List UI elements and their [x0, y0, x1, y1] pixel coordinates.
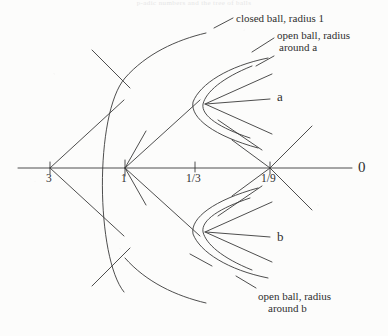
branch-1-lower-steep [125, 168, 146, 205]
leader-open-ball-b2 [190, 254, 212, 266]
open-ball-b-arc [193, 188, 268, 278]
point-label-b: b [277, 230, 284, 245]
branch-19-upper-shallow [232, 140, 270, 168]
branch-a-lower [205, 104, 272, 134]
point-label-a: a [277, 90, 283, 105]
annotation-open-ball-a-line2: around a [277, 41, 350, 53]
axis-tick-label-1: 1 [121, 172, 127, 185]
branch-1-upper-steep [125, 131, 146, 168]
leader-open-ball-b [236, 276, 256, 288]
axis-tick-label-3: 3 [46, 172, 52, 185]
open-ball-a-arc [193, 58, 268, 148]
axis-tick-label-1-3: 1/3 [186, 172, 201, 185]
branch-1-upper [125, 100, 200, 168]
branch-b-upper [205, 202, 272, 232]
leader-open-ball-a [252, 38, 274, 52]
leader-line-b [206, 232, 270, 237]
annotation-open-ball-b-line1: open ball, radius [258, 290, 331, 302]
closed-ball-arc-lower [125, 258, 206, 303]
branch-3-lower [50, 168, 124, 236]
annotation-open-ball-b-line2: around b [258, 302, 331, 314]
annotation-open-ball-a-line1: open ball, radius [277, 29, 350, 41]
annotation-closed-ball: closed ball, radius 1 [236, 12, 324, 24]
axis-tick-label-1-9: 1/9 [261, 172, 276, 185]
annotation-open-ball-b: open ball, radius around b [258, 290, 331, 315]
leader-line-a [206, 99, 270, 104]
closed-ball-arc [102, 33, 206, 292]
branch-19-upper [270, 126, 312, 168]
leader-closed-ball [214, 18, 233, 28]
leader-open-ball-a2 [256, 56, 274, 66]
axis-zero-label: 0 [358, 159, 366, 176]
stray-stroke-lower-left [92, 248, 130, 286]
branch-3-upper [50, 100, 124, 168]
annotation-closed-ball-line1: closed ball, radius 1 [236, 12, 324, 24]
branch-19-lower [270, 168, 312, 210]
annotation-open-ball-a: open ball, radius around a [277, 29, 350, 54]
stray-stroke-upper-left [92, 50, 130, 88]
